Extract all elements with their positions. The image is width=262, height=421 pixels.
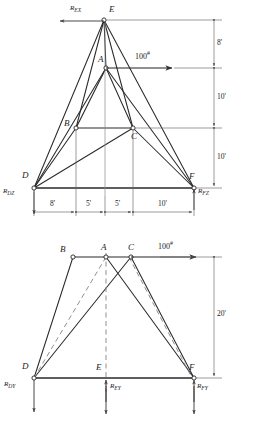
joint-B bbox=[74, 126, 78, 130]
node-label-D: D bbox=[22, 171, 29, 180]
node-label-B: B bbox=[64, 119, 70, 128]
plan-node-label-F: F bbox=[189, 363, 195, 372]
elevation-members bbox=[34, 20, 194, 188]
plan-joint-A bbox=[104, 255, 108, 259]
reaction-subscript-RDY: DY bbox=[8, 383, 15, 389]
dim-label-v10b: 10' bbox=[217, 153, 226, 161]
node-label-A: A bbox=[98, 55, 104, 64]
node-label-E: E bbox=[109, 5, 115, 14]
reaction-subscript-REX: EX bbox=[74, 7, 81, 13]
dim-label-v20: 20' bbox=[217, 310, 226, 318]
elevation-vertical-dim-chain bbox=[106, 20, 222, 188]
reaction-subscript-RFY: FY bbox=[201, 385, 207, 391]
node-label-F: F bbox=[189, 172, 195, 181]
load-value-plan: 100 bbox=[158, 242, 170, 251]
elevation-joints bbox=[32, 18, 196, 190]
plan-vertical-dim bbox=[160, 257, 222, 378]
reaction-label-REY: REY bbox=[110, 383, 121, 392]
joint-E bbox=[102, 18, 106, 22]
reaction-label-RDY: RDY bbox=[4, 381, 15, 390]
load-label-plan: 100# bbox=[158, 240, 173, 251]
joint-D bbox=[32, 186, 36, 190]
plan-joint-B bbox=[71, 255, 75, 259]
member-EF bbox=[104, 20, 194, 188]
dim-label-h5b: 5' bbox=[115, 200, 120, 208]
plan-node-label-E: E bbox=[96, 363, 102, 372]
joint-C bbox=[131, 126, 135, 130]
member-CD bbox=[34, 128, 133, 188]
plan-joints bbox=[32, 255, 196, 380]
plan-members-dashed bbox=[34, 253, 192, 392]
plan-members-solid bbox=[34, 257, 194, 378]
plan-member-CF-dashed bbox=[129, 257, 192, 378]
plan-member-CF bbox=[131, 257, 194, 378]
plan-member-DC bbox=[34, 257, 131, 378]
plan-member-AD-dashed bbox=[34, 257, 106, 378]
load-unit-elevation: # bbox=[147, 50, 150, 56]
dim-label-v10a: 10' bbox=[217, 93, 226, 101]
reaction-subscript-RFZ: FZ bbox=[202, 190, 208, 196]
load-value-elevation: 100 bbox=[135, 52, 147, 61]
plan-joint-F bbox=[192, 376, 196, 380]
reaction-label-RFY: RFY bbox=[197, 383, 208, 392]
plan-member-AF bbox=[106, 257, 194, 378]
reaction-subscript-REY: EY bbox=[114, 385, 120, 391]
load-unit-plan: # bbox=[170, 240, 173, 246]
dim-label-h8: 8' bbox=[50, 200, 55, 208]
plan-node-label-D: D bbox=[22, 362, 29, 371]
member-CF bbox=[133, 128, 194, 188]
reaction-label-RDZ: RDZ bbox=[3, 188, 14, 197]
reaction-subscript-RDZ: DZ bbox=[7, 190, 14, 196]
dim-label-h5a: 5' bbox=[86, 200, 91, 208]
plan-node-label-B: B bbox=[60, 245, 66, 254]
truss-drawing bbox=[0, 0, 262, 421]
reaction-label-RFZ: RFZ bbox=[198, 188, 209, 197]
dim-label-h10: 10' bbox=[158, 200, 167, 208]
figure-canvas: E A B C D F 100# REX RDZ RFZ 8' 10' 10' … bbox=[0, 0, 262, 421]
member-ED bbox=[34, 20, 104, 188]
plan-member-BD bbox=[34, 257, 73, 378]
reaction-label-REX: REX bbox=[70, 5, 81, 14]
plan-joint-D bbox=[32, 376, 36, 380]
plan-node-label-C: C bbox=[128, 243, 134, 252]
load-label-elevation: 100# bbox=[135, 50, 150, 61]
dim-label-v8: 8' bbox=[217, 39, 222, 47]
plan-node-label-A: A bbox=[101, 243, 107, 252]
node-label-C: C bbox=[131, 132, 137, 141]
